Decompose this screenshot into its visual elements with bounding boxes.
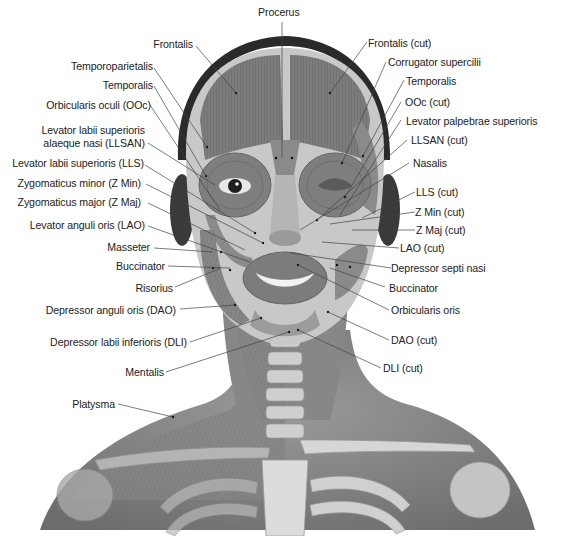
label-orbicularis-oculi: Orbicularis oculi (OOc): [46, 99, 151, 111]
label-temporalis-left: Temporalis: [103, 79, 153, 91]
label-llsan-line2: alaeque nasi (LLSAN): [43, 137, 145, 149]
label-zmaj-cut: Z Maj (cut): [416, 224, 466, 236]
label-dli-cut: DLI (cut): [383, 362, 423, 374]
label-mentalis: Mentalis: [125, 366, 164, 378]
label-buccinator-right: Buccinator: [389, 282, 438, 294]
label-temporoparietalis: Temporoparietalis: [71, 60, 153, 72]
label-levator-palpebrae-superioris: Levator palpebrae superioris: [406, 115, 537, 127]
label-nasalis: Nasalis: [413, 157, 447, 169]
label-risorius: Risorius: [136, 282, 173, 294]
label-masseter: Masseter: [107, 241, 150, 253]
label-llsan-line1: Levator labii superioris: [41, 124, 145, 136]
label-frontalis: Frontalis: [153, 38, 193, 50]
label-levator-anguli-oris: Levator anguli oris (LAO): [30, 219, 145, 231]
label-ooc-cut: OOc (cut): [405, 96, 450, 108]
label-zygomaticus-minor: Zygomaticus minor (Z Min): [18, 177, 141, 189]
label-platysma: Platysma: [72, 398, 115, 410]
label-corrugator-supercilii: Corrugator supercilii: [388, 56, 481, 68]
label-depressor-labii-inferioris: Depressor labii inferioris (DLI): [50, 336, 187, 348]
label-buccinator-left: Buccinator: [116, 260, 165, 272]
label-llsan-cut: LLSAN (cut): [411, 134, 468, 146]
label-procerus: Procerus: [258, 6, 300, 18]
label-lls-cut: LLS (cut): [416, 186, 458, 198]
label-frontalis-cut: Frontalis (cut): [368, 37, 431, 49]
label-dao-cut: DAO (cut): [391, 334, 437, 346]
label-depressor-septi-nasi: Depressor septi nasi: [391, 262, 486, 274]
label-depressor-anguli-oris: Depressor anguli oris (DAO): [46, 304, 176, 316]
label-zmin-cut: Z Min (cut): [415, 206, 465, 218]
label-lao-cut: LAO (cut): [400, 242, 444, 254]
label-lls: Levator labii superioris (LLS): [12, 157, 144, 169]
label-zygomaticus-major: Zygomaticus major (Z Maj): [18, 196, 141, 208]
label-temporalis-right: Temporalis: [406, 75, 456, 87]
label-orbicularis-oris: Orbicularis oris: [391, 304, 460, 316]
anatomy-diagram: Procerus Frontalis Temporoparietalis Tem…: [0, 0, 565, 536]
